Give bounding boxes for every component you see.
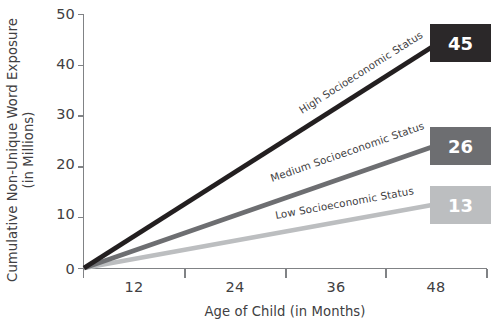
y-axis-title-line1: Cumulative Non-Unique Word Exposure [5,18,20,282]
line-chart: Cumulative Non-Unique Word Exposure (in … [0,0,497,323]
value-box-label-medium-ses: 26 [448,136,473,157]
y-tick-label-40: 40 [56,56,75,72]
x-tick-label-24: 24 [226,279,245,295]
x-axis-title: Age of Child (in Months) [204,304,365,319]
series-label-low-ses: Low Socioeconomic Status [274,184,414,221]
x-tick-label-36: 36 [327,279,346,295]
y-tick-label-0: 0 [66,261,75,277]
y-tick-label-20: 20 [56,156,75,172]
x-tick-label-48: 48 [427,279,446,295]
value-box-label-high-ses: 45 [448,33,473,54]
y-axis-title-line2: (in Millions) [21,111,36,188]
chart-container: Cumulative Non-Unique Word Exposure (in … [0,0,497,323]
y-tick-label-50: 50 [56,6,75,22]
y-tick-label-10: 10 [56,206,75,222]
x-tick-label-12: 12 [125,279,144,295]
series-label-high-ses: High Socioeconomic Status [297,28,425,115]
value-box-label-low-ses: 13 [448,195,473,216]
series-line-medium-ses [84,147,432,268]
y-tick-label-30: 30 [56,106,75,122]
